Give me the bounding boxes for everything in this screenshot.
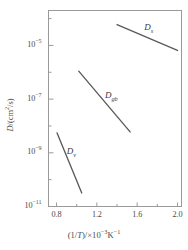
y-tick-label: 10−5 bbox=[0, 40, 42, 49]
series-lines bbox=[57, 25, 177, 193]
y-axis-title: D/(cm2/s) bbox=[2, 72, 18, 158]
x-tick-label: 0.8 bbox=[43, 210, 71, 219]
x-axis-title: (1/T)/×10−3K−1 bbox=[0, 230, 188, 240]
arrhenius-diffusion-figure: 10−510−710−910−11 0.81.21.62.0 D/(cm2/s)… bbox=[0, 0, 188, 250]
plot-frame bbox=[49, 11, 182, 207]
curve-label-D_s: Ds bbox=[144, 22, 153, 32]
y-axis-title-text: D/(cm2/s) bbox=[6, 99, 15, 132]
curve-label-D_gb: Dgb bbox=[105, 90, 118, 100]
curve-label-D_v: Dv bbox=[67, 146, 76, 156]
y-tick-label: 10−11 bbox=[0, 201, 42, 210]
x-tick-label: 2.0 bbox=[163, 210, 188, 219]
series-line-D_v bbox=[57, 133, 82, 193]
x-tick-label: 1.6 bbox=[123, 210, 151, 219]
series-line-D_gb bbox=[79, 71, 130, 132]
x-tick-label: 1.2 bbox=[83, 210, 111, 219]
